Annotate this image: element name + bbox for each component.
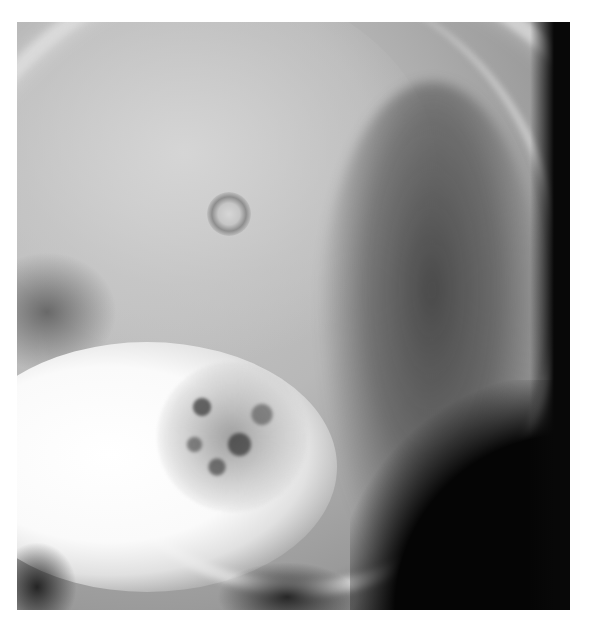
skull-xray-image [17, 22, 570, 610]
mastoid-air-cells [157, 362, 307, 512]
ear-canal-ring [207, 192, 251, 236]
background-dark-edge [530, 22, 570, 610]
